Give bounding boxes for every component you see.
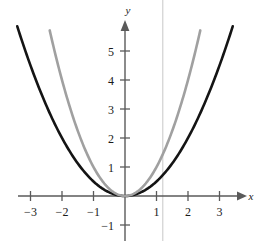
x-axis-arrowhead bbox=[237, 192, 247, 201]
x-axis-tick-labels: −3−2−1123 bbox=[24, 205, 222, 219]
x-tick-label: 2 bbox=[185, 205, 191, 219]
y-tick-label: −1 bbox=[101, 219, 114, 233]
x-tick-label: −3 bbox=[24, 205, 37, 219]
x-tick-label: −2 bbox=[56, 205, 69, 219]
y-tick-label: 2 bbox=[108, 132, 114, 146]
x-tick-label: 1 bbox=[154, 205, 160, 219]
y-tick-label: 1 bbox=[108, 161, 114, 175]
y-tick-label: 3 bbox=[108, 103, 114, 117]
x-tick-label: 3 bbox=[217, 205, 223, 219]
y-axis-arrowhead bbox=[121, 20, 130, 31]
graph-figure: −3−2−1123 −112345 x y bbox=[0, 0, 260, 241]
x-tick-label: −1 bbox=[87, 205, 100, 219]
x-axis-label: x bbox=[248, 190, 254, 202]
y-axis-tick-labels: −112345 bbox=[101, 45, 114, 233]
parabolas-plot: −3−2−1123 −112345 x y bbox=[0, 0, 260, 241]
y-tick-label: 5 bbox=[108, 45, 114, 59]
y-tick-label: 4 bbox=[108, 74, 114, 88]
y-axis-label: y bbox=[125, 4, 131, 16]
